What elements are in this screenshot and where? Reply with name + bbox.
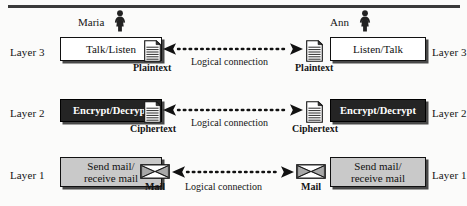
layer-label-right-layer3: Layer 3 xyxy=(432,47,467,59)
layer-label-right-layer1: Layer 1 xyxy=(432,170,467,182)
person-female-icon-ann xyxy=(358,10,372,36)
layer-label-left-layer1: Layer 1 xyxy=(10,170,45,182)
layer-label-right-layer2: Layer 2 xyxy=(432,108,467,120)
connection-label-layer3: Logical connection xyxy=(191,57,268,68)
box-listen-talk[interactable]: Listen/Talk xyxy=(330,37,426,61)
box-label: Listen/Talk xyxy=(353,43,403,55)
layer-label-left-layer2: Layer 2 xyxy=(10,108,45,120)
artifact-label-mail-left: Mail xyxy=(145,182,165,193)
box-encrypt-decrypt-right[interactable]: Encrypt/Decrypt xyxy=(330,99,426,122)
layer-label-left-layer3: Layer 3 xyxy=(10,47,45,59)
box-label: Talk/Listen xyxy=(86,43,136,55)
connection-label-layer2: Logical connection xyxy=(191,118,268,129)
box-label: Encrypt/Decrypt xyxy=(340,105,416,117)
box-label: Encrypt/Decrypt xyxy=(73,105,149,117)
person-female-icon-maria xyxy=(113,10,127,36)
top-divider-rule xyxy=(8,5,460,8)
artifact-label-mail-right: Mail xyxy=(301,182,321,193)
artifact-label-ciphertext-left: Ciphertext xyxy=(130,124,176,135)
artifact-label-plaintext-left: Plaintext xyxy=(133,63,171,74)
person-label-maria: Maria xyxy=(78,17,104,29)
person-label-ann: Ann xyxy=(330,17,349,29)
box-send-receive-mail-right[interactable]: Send mail/ receive mail xyxy=(330,157,426,187)
box-label: Send mail/ receive mail xyxy=(351,160,405,184)
diagram-canvas: Maria Ann Layer 3 Talk/Listen xyxy=(0,0,467,206)
box-label: Send mail/ receive mail xyxy=(84,160,138,184)
connection-label-layer1: Logical connection xyxy=(185,182,262,193)
artifact-label-ciphertext-right: Ciphertext xyxy=(292,124,338,135)
artifact-label-plaintext-right: Plaintext xyxy=(295,63,333,74)
